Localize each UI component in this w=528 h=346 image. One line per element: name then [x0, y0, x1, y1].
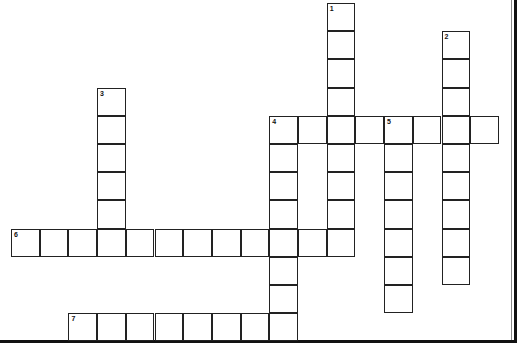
crossword-cell[interactable] [470, 116, 499, 144]
crossword-cell[interactable] [327, 144, 356, 172]
crossword-cell[interactable] [126, 313, 155, 341]
clue-number: 3 [100, 90, 104, 97]
crossword-cell[interactable] [155, 313, 184, 341]
crossword-cell[interactable] [442, 200, 471, 228]
crossword-cell[interactable] [327, 88, 356, 116]
crossword-cell[interactable] [327, 172, 356, 200]
crossword-cell[interactable] [40, 229, 69, 257]
clue-number: 2 [445, 33, 449, 40]
crossword-cell[interactable] [442, 172, 471, 200]
crossword-cell[interactable] [384, 200, 413, 228]
crossword-cell[interactable]: 5 [384, 116, 413, 144]
crossword-cell[interactable] [327, 31, 356, 59]
crossword-cell[interactable] [413, 116, 442, 144]
crossword-cell[interactable] [269, 229, 298, 257]
crossword-cell[interactable] [241, 229, 270, 257]
crossword-cell[interactable]: 2 [442, 31, 471, 59]
clue-number: 7 [71, 315, 75, 322]
crossword-cell[interactable]: 7 [68, 313, 97, 341]
crossword-cell[interactable] [442, 59, 471, 87]
crossword-cell[interactable] [384, 285, 413, 313]
crossword-cell[interactable] [442, 257, 471, 285]
crossword-cell[interactable] [269, 313, 298, 341]
crossword-cell[interactable] [327, 116, 356, 144]
crossword-cell[interactable] [269, 172, 298, 200]
crossword-cell[interactable] [269, 285, 298, 313]
crossword-cell[interactable] [298, 229, 327, 257]
crossword-cell[interactable]: 3 [97, 88, 126, 116]
crossword-cell[interactable] [155, 229, 184, 257]
crossword-cell[interactable] [126, 229, 155, 257]
crossword-cell[interactable]: 1 [327, 3, 356, 31]
crossword-cell[interactable] [269, 144, 298, 172]
crossword-cell[interactable] [97, 229, 126, 257]
crossword-cell[interactable] [183, 229, 212, 257]
crossword-cell[interactable] [384, 172, 413, 200]
crossword-cell[interactable] [442, 88, 471, 116]
crossword-cell[interactable]: 6 [11, 229, 40, 257]
crossword-cell[interactable] [97, 313, 126, 341]
clue-number: 1 [330, 5, 334, 12]
crossword-cell[interactable] [327, 229, 356, 257]
crossword-cell[interactable]: 4 [269, 116, 298, 144]
crossword-cell[interactable] [269, 200, 298, 228]
crossword-cell[interactable] [384, 257, 413, 285]
crossword-cell[interactable] [384, 229, 413, 257]
crossword-cell[interactable] [68, 229, 97, 257]
crossword-cell[interactable] [442, 144, 471, 172]
crossword-cell[interactable] [327, 200, 356, 228]
clue-number: 4 [272, 118, 276, 125]
clue-number: 5 [387, 118, 391, 125]
crossword-cell[interactable] [212, 229, 241, 257]
crossword-cell[interactable] [212, 313, 241, 341]
crossword-cell[interactable] [327, 59, 356, 87]
crossword-cell[interactable] [97, 116, 126, 144]
crossword-cell[interactable] [442, 116, 471, 144]
puzzle-frame [0, 0, 517, 343]
crossword-cell[interactable] [97, 144, 126, 172]
crossword-cell[interactable] [355, 116, 384, 144]
crossword-cell[interactable] [384, 144, 413, 172]
crossword-cell[interactable] [269, 257, 298, 285]
crossword-cell[interactable] [241, 313, 270, 341]
crossword-cell[interactable] [97, 200, 126, 228]
crossword-cell[interactable] [183, 313, 212, 341]
crossword-cell[interactable] [442, 229, 471, 257]
crossword-cell[interactable] [97, 172, 126, 200]
clue-number: 6 [14, 231, 18, 238]
crossword-cell[interactable] [298, 116, 327, 144]
